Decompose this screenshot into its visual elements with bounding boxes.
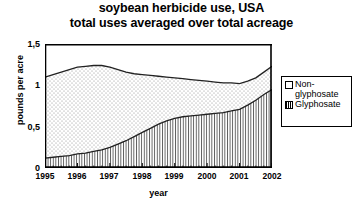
legend-item-glyphosate[interactable]: Glyphosate: [285, 100, 349, 110]
x-tick-1995: 1995: [28, 171, 62, 181]
chart-title-line-2: total uses averaged over total acreage: [0, 16, 363, 31]
x-tick-1998: 1998: [125, 171, 159, 181]
stacked-area-svg: [45, 44, 272, 168]
y-tick-1.5: 1,5: [27, 39, 40, 49]
chart-title: soybean herbicide use, USA total uses av…: [0, 1, 363, 31]
legend-swatch-glyphosate: [285, 101, 293, 109]
x-tick-1997: 1997: [92, 171, 126, 181]
legend-swatch-non-glyphosate: [285, 81, 293, 89]
x-tick-2001: 2001: [222, 171, 256, 181]
y-tick-0.5: 0,5: [27, 122, 40, 132]
y-tick-1: 1: [35, 80, 40, 90]
plot-area: [45, 44, 272, 168]
chart-container: soybean herbicide use, USA total uses av…: [0, 0, 363, 209]
chart-title-line-1: soybean herbicide use, USA: [0, 1, 363, 16]
x-tick-1999: 1999: [157, 171, 191, 181]
x-axis-label: year: [45, 188, 272, 198]
x-tick-2000: 2000: [190, 171, 224, 181]
chart-legend: Non- glyphosate Glyphosate: [281, 76, 352, 127]
legend-label-glyphosate: Glyphosate: [295, 100, 341, 110]
x-tick-2002: 2002: [255, 171, 289, 181]
legend-item-non-glyphosate[interactable]: Non- glyphosate: [285, 80, 349, 99]
legend-label-non-glyphosate: Non- glyphosate: [295, 80, 339, 99]
x-tick-1996: 1996: [60, 171, 94, 181]
